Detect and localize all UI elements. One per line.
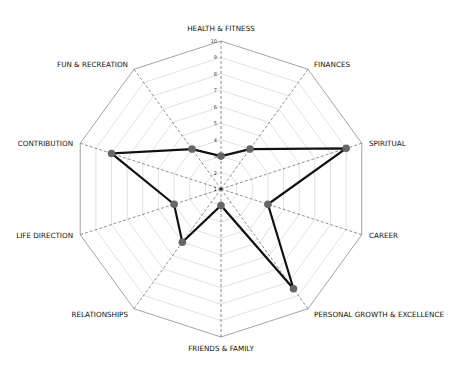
data-point: [179, 238, 187, 246]
axis-line: [221, 69, 308, 189]
tick-label: 7: [214, 87, 217, 93]
series-line: [112, 148, 347, 288]
center-dot: [220, 188, 223, 191]
data-point: [170, 200, 178, 208]
axis-line: [221, 189, 362, 235]
tick-label: 4: [214, 137, 217, 143]
radar-chart: 12345678910 HEALTH & FITNESSFINANCESSPIR…: [0, 0, 466, 377]
data-point: [217, 202, 225, 210]
tick-label: 10: [211, 38, 217, 44]
tick-label: 5: [214, 120, 217, 126]
data-point: [246, 145, 254, 153]
category-label: PERSONAL GROWTH & EXCELLENCE: [314, 310, 444, 319]
data-point: [264, 200, 272, 208]
tick-label: 9: [214, 54, 217, 60]
axis-line: [134, 69, 221, 189]
category-label: CAREER: [369, 231, 398, 240]
tick-label: 2: [214, 170, 217, 176]
data-point: [342, 145, 350, 153]
category-label: CONTRIBUTION: [18, 139, 73, 148]
tick-label: 1: [214, 186, 217, 192]
category-label: FUN & RECREATION: [57, 60, 128, 69]
category-label: RELATIONSHIPS: [71, 310, 128, 319]
tick-label: 6: [214, 104, 217, 110]
category-label: HEALTH & FITNESS: [187, 24, 255, 33]
axis-line: [134, 189, 221, 309]
data-point: [108, 150, 116, 158]
axis-line: [80, 189, 221, 235]
category-label: SPIRITUAL: [369, 139, 406, 148]
tick-label: 8: [214, 71, 217, 77]
data-series: [108, 145, 350, 293]
data-point: [188, 145, 196, 153]
data-point: [290, 285, 298, 293]
category-label: FRIENDS & FAMILY: [188, 344, 254, 353]
category-label: FINANCES: [314, 60, 350, 69]
category-label: LIFE DIRECTION: [16, 231, 73, 240]
data-point: [217, 152, 225, 160]
radial-tick-labels: 12345678910: [211, 38, 217, 192]
